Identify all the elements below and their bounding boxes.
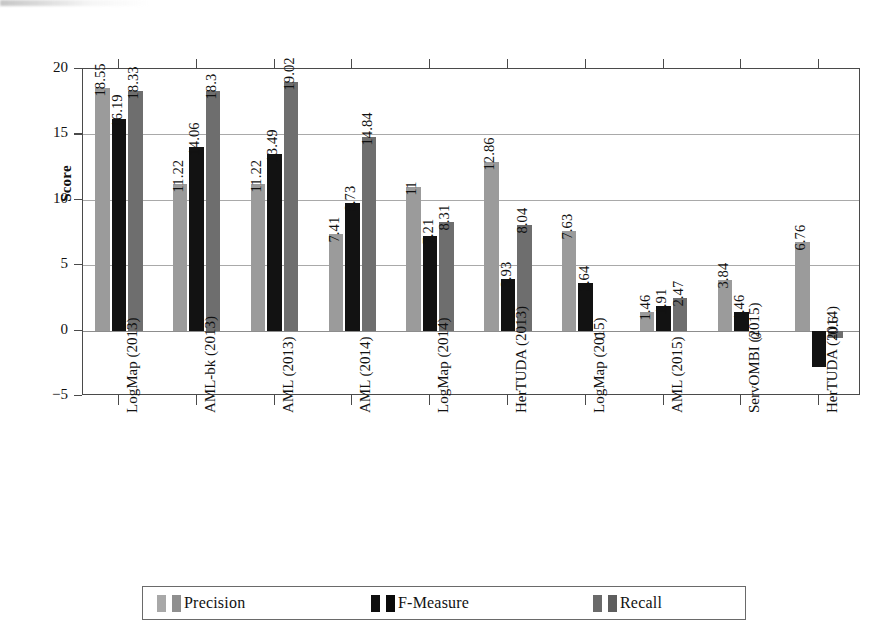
bottom-tick-0 [118,395,119,405]
x-category-label-1: AML-bk (2013) [203,316,218,413]
value-label-recall-7: 2.47 [670,281,685,307]
plot-area [82,68,860,395]
top-tick-0 [118,59,119,68]
legend-swatch-recall-2-icon [608,595,617,612]
bar-fmeasure-1 [189,147,204,331]
value-label-recall-3: 14.84 [359,112,374,145]
bottom-tick-7 [663,395,664,405]
legend-swatch-precision-icon [157,595,166,612]
y-tick-label-0: 0 [6,322,68,337]
bottom-tick-4 [429,395,430,405]
bar-precision-9 [795,242,810,330]
bottom-tick-2 [274,395,275,405]
value-label-fmeasure-0: 16.19 [109,94,124,127]
value-label-precision-7: 1.46 [637,294,652,320]
bar-precision-1 [173,184,188,331]
bar-fmeasure-3 [345,203,360,330]
chart-legend: Precision F-Measure Recall [142,586,746,620]
bar-fmeasure-4 [423,236,438,330]
y-tick-label-20: 20 [6,60,68,75]
x-category-label-9: HerTUDA (2014) [825,306,840,413]
bar-recall-1 [206,91,221,330]
value-label-recall-0: 18.33 [126,66,141,99]
top-tick-3 [351,59,352,68]
value-label-fmeasure-6: 3.64 [576,266,591,292]
bar-precision-0 [95,88,110,331]
x-category-label-0: LogMap (2013) [125,318,140,413]
legend-item-precision: Precision [157,587,245,619]
value-label-precision-4: 11 [404,181,419,195]
legend-label-fmeasure: F-Measure [398,594,469,612]
x-category-label-3: AML (2014) [358,336,373,413]
y-axis-title: Score [58,124,75,244]
x-category-label-5: HerTUDA (2013) [514,306,529,413]
top-tick-2 [274,59,275,68]
legend-label-precision: Precision [184,594,245,612]
y-tick-label--5: −5 [6,387,68,402]
value-label-fmeasure-4: 7.21 [420,219,435,245]
bar-precision-6 [562,231,577,331]
bottom-tick-8 [740,395,741,405]
bar-precision-2 [251,184,266,331]
top-tick-8 [740,59,741,68]
value-label-precision-0: 18.55 [93,63,108,96]
bar-recall-0 [128,91,143,331]
legend-item-recall: Recall [593,587,662,619]
top-tick-6 [585,59,586,68]
y-tick-mark-10 [74,199,82,200]
value-label-recall-4: 8.31 [437,205,452,231]
value-label-precision-2: 11.22 [248,160,263,193]
x-category-label-7: AML (2015) [670,336,685,413]
bottom-tick-9 [818,395,819,405]
bottom-tick-1 [196,395,197,405]
legend-label-recall: Recall [620,594,662,612]
value-label-recall-1: 18.3 [203,74,218,100]
value-label-precision-5: 12.86 [482,138,497,171]
bar-fmeasure-0 [112,119,127,331]
y-tick-label-10: 10 [6,191,68,206]
bar-recall-4 [439,222,454,331]
gridline-0 [83,331,859,332]
top-tick-5 [507,59,508,68]
x-category-label-8: ServOMBI (2015) [747,303,762,413]
y-tick-mark-5 [74,264,82,265]
value-label-precision-1: 11.22 [170,160,185,193]
value-label-precision-9: 6.76 [793,225,808,251]
bar-chart-figure: Score 20151050−5 18.5516.1918.3311.2214.… [0,0,890,641]
y-tick-mark--5 [74,395,82,396]
value-label-precision-6: 7.63 [560,214,575,240]
y-tick-label-5: 5 [6,256,68,271]
bar-precision-4 [406,187,421,331]
bar-precision-5 [484,162,499,330]
value-label-precision-3: 7.41 [326,216,341,242]
x-category-label-2: AML (2013) [281,336,296,413]
y-tick-mark-20 [74,68,82,69]
bar-fmeasure-2 [267,154,282,330]
bar-recall-2 [284,82,299,331]
bottom-tick-3 [351,395,352,405]
value-label-recall-5: 8.04 [515,208,530,234]
legend-swatch-fmeasure-2-icon [386,595,395,612]
legend-swatch-precision-2-icon [172,595,181,612]
bottom-tick-6 [585,395,586,405]
value-label-fmeasure-3: 9.73 [343,186,358,212]
value-label-fmeasure-2: 13.49 [265,130,280,163]
value-label-fmeasure-8: 1.46 [732,294,747,320]
top-tick-9 [818,59,819,68]
bar-recall-3 [362,137,377,331]
y-tick-mark-15 [74,133,82,134]
x-category-label-4: LogMap (2014) [436,318,451,413]
value-label-recall-2: 19.02 [281,57,296,90]
y-tick-mark-0 [74,330,82,331]
value-label-precision-8: 3.84 [715,263,730,289]
top-tick-7 [663,59,664,68]
top-tick-1 [196,59,197,68]
top-tick-4 [429,59,430,68]
legend-swatch-recall-icon [593,595,602,612]
bottom-tick-5 [507,395,508,405]
y-tick-label-15: 15 [6,125,68,140]
value-label-fmeasure-5: 3.93 [498,262,513,288]
bar-precision-3 [329,234,344,331]
legend-swatch-fmeasure-icon [371,595,380,612]
value-label-fmeasure-7: 1.91 [654,288,669,314]
